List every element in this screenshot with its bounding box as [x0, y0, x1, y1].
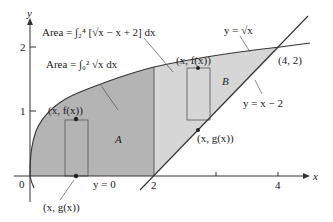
- point-f-right: [196, 66, 200, 70]
- x-tick-label-4: 4: [275, 179, 281, 191]
- y-tick-label-1: 1: [20, 105, 26, 117]
- x-tick-label-2: 2: [151, 179, 157, 191]
- y-axis-label: y: [26, 7, 32, 19]
- fx-right-label: (x, f(x)): [176, 54, 211, 67]
- line-curve-label: y = x − 2: [243, 97, 283, 109]
- sqrt-curve-lower: [30, 176, 34, 188]
- sqrt-curve-label: y = √x: [224, 24, 253, 36]
- point-g-left: [74, 174, 78, 178]
- y-tick-label-2: 2: [20, 41, 26, 53]
- leader-sqrt-label: [240, 36, 250, 52]
- fx-left-label: (x, f(x)): [48, 104, 83, 117]
- region-b-label: B: [222, 75, 229, 87]
- point-f-left: [74, 117, 78, 121]
- area-b-formula: Area = ∫₂⁴ [√x − x + 2] dx: [42, 26, 156, 39]
- region-a-label: A: [114, 133, 122, 145]
- gx-left-label: (x, g(x)): [43, 201, 80, 214]
- area-a-formula: Area = ∫₀² √x dx: [46, 58, 118, 71]
- x-axis-label: x: [312, 170, 318, 182]
- y-axis-arrow-icon: [27, 18, 33, 25]
- region-a: [30, 67, 154, 176]
- area-between-curves-diagram: y x 0 2 4 1 2 Area = ∫₂⁴ [√x − x + 2] dx…: [0, 0, 333, 222]
- leader-g-left: [60, 180, 74, 200]
- gx-right-label: (x, g(x)): [197, 132, 234, 145]
- intersection-label: (4, 2): [278, 54, 302, 67]
- leader-line-label: [255, 80, 262, 94]
- zero-line-label: y = 0: [93, 178, 116, 190]
- origin-label: 0: [19, 178, 25, 190]
- x-axis-arrow-icon: [303, 173, 310, 179]
